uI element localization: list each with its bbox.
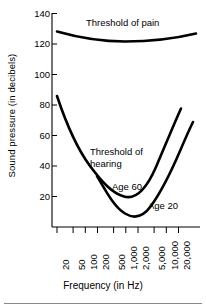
- x-tick-label: 200: [101, 254, 111, 270]
- annotation-age-20: Age 20: [148, 200, 178, 211]
- annotation-threshold-of-pain: Threshold of pain: [86, 17, 159, 28]
- x-axis-title: Frequency (in Hz): [0, 280, 206, 291]
- x-tick-label: 1,000: [129, 246, 139, 270]
- annotation-age-60: Age 60: [112, 181, 142, 192]
- chart-figure: 140 120 100 80 60 40 20 Sound pressure (…: [0, 0, 206, 307]
- bottom-divider: [4, 303, 202, 304]
- x-tick-label: 10,000: [170, 241, 180, 270]
- x-tick-label: 500: [117, 254, 127, 270]
- annotation-threshold-of-hearing: Threshold of hearing: [90, 146, 150, 169]
- x-tick-label: 20: [61, 259, 71, 270]
- x-tick-label: 100: [89, 254, 99, 270]
- x-tick-label: 5,000: [157, 246, 167, 270]
- x-tick-label: 20,000: [182, 241, 192, 270]
- x-tick-label: 2,000: [141, 246, 151, 270]
- x-tick-label: 50: [77, 259, 87, 270]
